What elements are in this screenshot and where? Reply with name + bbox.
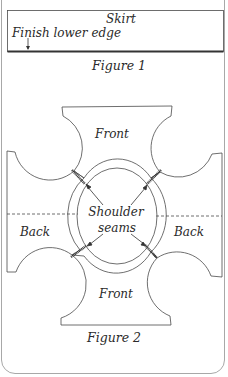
neck-label-seams: seams (98, 222, 136, 234)
front-bottom-label: Front (99, 288, 133, 300)
arrow-icon (143, 185, 147, 190)
pattern-diagram (0, 0, 228, 377)
arrow-icon (86, 184, 91, 189)
shoulder-seam-top-right (147, 170, 161, 184)
finish-lower-edge-label: Finish lower edge (12, 27, 121, 39)
figure-1-caption: Figure 1 (92, 60, 146, 73)
back-left-piece (7, 151, 84, 272)
front-top-label: Front (95, 128, 129, 140)
front-top-piece (62, 106, 172, 178)
skirt-label: Skirt (106, 13, 136, 25)
figure-2-caption: Figure 2 (87, 332, 141, 345)
back-left-label: Back (20, 226, 50, 238)
back-right-piece (151, 153, 222, 277)
back-right-label: Back (174, 226, 204, 238)
arrow-icon (87, 242, 92, 246)
neck-label-shoulder: Shoulder (88, 206, 143, 218)
